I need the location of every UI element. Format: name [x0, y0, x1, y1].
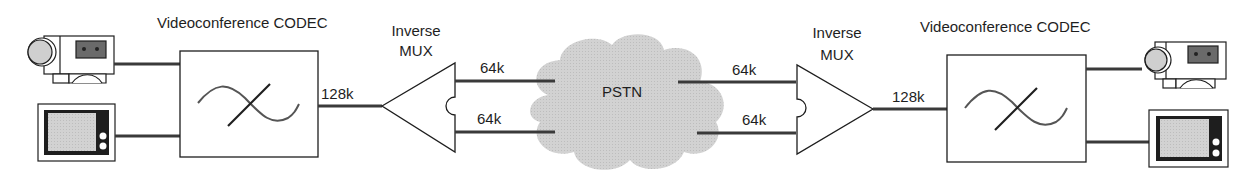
- videoconference-diagram: PSTN Videoconference CODEC 128k Inverse …: [0, 0, 1258, 189]
- left-128k-label: 128k: [321, 85, 354, 102]
- left-monitor-icon: [38, 104, 115, 161]
- right-64k-bottom-label: 64k: [742, 111, 767, 128]
- right-64k-top-label: 64k: [732, 61, 757, 78]
- left-64k-top-label: 64k: [480, 59, 505, 76]
- pstn-label: PSTN: [602, 83, 642, 100]
- right-codec-box: [947, 55, 1086, 162]
- right-mux-label-line1: Inverse: [812, 24, 861, 41]
- right-128k-label: 128k: [892, 88, 925, 105]
- left-codec-box: [180, 51, 318, 157]
- left-inverse-mux-icon: [382, 63, 455, 152]
- left-64k-bottom-label: 64k: [477, 110, 502, 127]
- left-codec-label: Videoconference CODEC: [157, 14, 328, 31]
- right-mux-label-line2: MUX: [820, 46, 853, 63]
- right-inverse-mux-icon: [797, 65, 873, 154]
- right-monitor-icon: [1149, 110, 1228, 167]
- left-camera-icon: [28, 36, 114, 83]
- right-codec-label: Videoconference CODEC: [920, 18, 1091, 35]
- right-camera-icon: [1145, 42, 1226, 88]
- pstn-cloud-icon: [530, 34, 724, 170]
- left-mux-label-line1: Inverse: [391, 22, 440, 39]
- left-mux-label-line2: MUX: [399, 42, 432, 59]
